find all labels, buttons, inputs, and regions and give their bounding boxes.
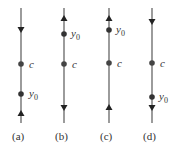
- equilibrium-point-c: [106, 60, 112, 66]
- label-y0-b: y0: [71, 28, 80, 42]
- phase-line-b: [61, 8, 68, 123]
- equilibrium-point-c: [18, 61, 24, 67]
- label-y0-c: y0: [116, 24, 125, 38]
- phase-line-c: [106, 8, 113, 123]
- arrow-up-icon: [61, 15, 68, 21]
- initial-point-y0: [18, 91, 24, 97]
- initial-point-y0: [106, 27, 112, 33]
- equilibrium-point-c: [61, 61, 67, 67]
- arrow-down-icon: [149, 105, 156, 111]
- label-c-c: c: [117, 58, 122, 69]
- caption-a: (a): [12, 131, 24, 142]
- equilibrium-point-c: [149, 60, 155, 66]
- initial-point-y0: [61, 31, 67, 37]
- initial-point-y0: [149, 94, 155, 100]
- label-c-b: c: [72, 59, 77, 70]
- arrow-up-icon: [106, 104, 113, 110]
- label-y0-d: y0: [159, 91, 168, 105]
- phase-lines-diagram: [0, 0, 176, 148]
- caption-c: (c): [100, 131, 112, 142]
- caption-d: (d): [143, 131, 156, 142]
- arrow-down-icon: [149, 19, 156, 25]
- label-c-a: c: [29, 59, 34, 70]
- phase-line-d: [149, 8, 156, 123]
- phase-line-a: [18, 8, 25, 123]
- caption-b: (b): [55, 131, 68, 142]
- label-c-d: c: [160, 58, 165, 69]
- arrow-down-icon: [18, 27, 25, 33]
- label-y0-a: y0: [29, 88, 38, 102]
- arrow-down-icon: [61, 105, 68, 111]
- arrow-up-icon: [18, 110, 25, 116]
- arrow-up-icon: [106, 15, 113, 21]
